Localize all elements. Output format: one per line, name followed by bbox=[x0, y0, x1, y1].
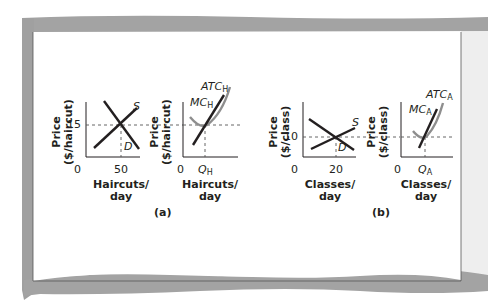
panel-label-a: (a) bbox=[154, 206, 171, 219]
y-tick-15: 15 bbox=[67, 118, 81, 131]
left-frame-band bbox=[22, 18, 34, 300]
origin-label: 0 bbox=[74, 163, 81, 176]
x-axis-title: Haircuts/day bbox=[174, 179, 246, 203]
panel-label-b: (b) bbox=[372, 206, 390, 219]
x-tick-50: 50 bbox=[114, 163, 128, 176]
supply-label: S bbox=[352, 116, 359, 129]
x-tick-qa: QA bbox=[418, 163, 432, 177]
origin-label: 0 bbox=[177, 163, 184, 176]
top-frame-band bbox=[22, 16, 488, 32]
atc-label: ATCH bbox=[201, 80, 228, 94]
right-side-panel bbox=[461, 30, 488, 290]
y-axis-title: Price($/class) bbox=[366, 97, 390, 167]
y-tick-10: 10 bbox=[284, 130, 298, 143]
y-axis-title: Price($/haircut) bbox=[149, 97, 173, 167]
mc-label: MCH bbox=[190, 96, 213, 110]
origin-label: 0 bbox=[291, 163, 298, 176]
y-axis-title: Price($/haircut) bbox=[51, 97, 75, 167]
x-axis-title: Classes/day bbox=[294, 179, 366, 203]
x-tick-20: 20 bbox=[329, 163, 343, 176]
demand-label: D bbox=[124, 140, 132, 153]
demand-label: D bbox=[338, 141, 346, 154]
origin-label: 0 bbox=[394, 163, 401, 176]
atc-label: ATCA bbox=[426, 88, 453, 102]
supply-label: S bbox=[133, 100, 140, 113]
figure-page: Price($/haircut) 15 0 50 S D Haircuts/da… bbox=[0, 0, 488, 303]
x-axis-title: Haircuts/day bbox=[85, 179, 157, 203]
mc-label: MCA bbox=[409, 103, 432, 117]
x-axis-title: Classes/day bbox=[390, 179, 462, 203]
x-tick-qh: QH bbox=[198, 163, 213, 177]
